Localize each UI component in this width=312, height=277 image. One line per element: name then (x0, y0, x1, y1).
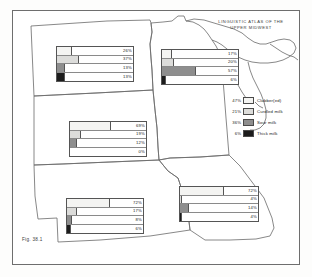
bar-row-thick-milk: 0% (70, 148, 146, 157)
bar-row-thick-milk: 13% (57, 73, 133, 82)
bar-fill (70, 122, 111, 130)
bar-fill (180, 213, 182, 222)
legend-item-sour-milk: 36%Sour milk (228, 117, 298, 128)
bar-fill (67, 208, 77, 216)
legend-item-thick-milk: 6%Thick milk (228, 128, 298, 139)
chart-panel-minnesota: 17%20%57%6% (161, 49, 239, 85)
bar-value-label: 17% (228, 52, 237, 56)
bar-value-label: 4% (250, 197, 256, 201)
bar-row-sour-milk: 13% (57, 64, 133, 73)
bar-row-curdled-milk: 17% (67, 208, 143, 217)
bar-row-clabber-ed: 26% (57, 47, 133, 56)
upper-peninsula-outline (270, 44, 298, 60)
bar-fill (162, 67, 196, 75)
bar-fill (180, 187, 224, 195)
bar-value-label: 20% (228, 60, 237, 64)
legend-label: Clabber(ed) (257, 98, 281, 103)
bar-value-label: 72% (248, 189, 257, 193)
bar-row-curdled-milk: 19% (70, 131, 146, 140)
bar-fill (57, 64, 65, 72)
bar-value-label: 13% (123, 66, 132, 70)
bar-value-label: 72% (133, 201, 142, 205)
bar-row-sour-milk: 57% (162, 67, 238, 76)
bar-value-label: 8% (135, 218, 141, 222)
legend-swatch (243, 130, 254, 137)
bar-value-label: 6% (230, 78, 236, 82)
bar-fill (57, 47, 72, 55)
bar-fill (70, 139, 77, 147)
bar-value-label: 37% (123, 57, 132, 61)
figure-title-line2: UPPER MIDWEST (205, 25, 297, 31)
bar-value-label: 69% (136, 124, 145, 128)
bar-row-curdled-milk: 20% (162, 59, 238, 68)
bar-value-label: 19% (136, 132, 145, 136)
state-outline-minnesota (150, 16, 229, 160)
bar-fill (180, 196, 182, 204)
legend-swatch (243, 119, 254, 126)
legend-percent: 6% (228, 131, 241, 136)
legend-percent: 36% (228, 120, 241, 125)
bar-row-curdled-milk: 4% (180, 196, 258, 205)
bar-row-curdled-milk: 37% (57, 56, 133, 65)
figure-caption: Fig. 38.1 (22, 237, 43, 242)
bar-value-label: 6% (135, 227, 141, 231)
chart-panel-nebraska: 72%17%8%6% (66, 198, 144, 234)
bar-row-clabber-ed: 69% (70, 122, 146, 131)
chart-panel-south-dakota: 69%19%12%0% (69, 121, 147, 157)
bar-fill (67, 216, 72, 224)
legend-item-curdled-milk: 21%Curdled milk (228, 106, 298, 117)
legend-swatch (243, 97, 254, 104)
bar-value-label: 12% (136, 141, 145, 145)
legend-label: Curdled milk (257, 109, 283, 114)
chart-panel-iowa: 72%4%14%4% (179, 186, 259, 222)
legend-item-clabber-ed: 47%Clabber(ed) (228, 95, 298, 106)
bar-fill (162, 76, 166, 85)
legend: 47%Clabber(ed)21%Curdled milk36%Sour mil… (228, 95, 298, 139)
bar-value-label: 57% (228, 69, 237, 73)
bar-fill (57, 56, 79, 64)
bar-row-thick-milk: 6% (162, 76, 238, 85)
bar-fill (180, 204, 189, 212)
legend-percent: 47% (228, 98, 241, 103)
bar-row-sour-milk: 8% (67, 216, 143, 225)
bar-fill (162, 50, 172, 58)
legend-label: Sour milk (257, 120, 276, 125)
bar-row-sour-milk: 12% (70, 139, 146, 148)
bar-value-label: 17% (133, 209, 142, 213)
bar-fill (162, 59, 174, 67)
bar-row-clabber-ed: 17% (162, 50, 238, 59)
figure-title: LINGUISTIC ATLAS OF THE UPPER MIDWEST (205, 19, 297, 31)
bar-value-label: 4% (250, 215, 256, 219)
bar-value-label: 14% (248, 206, 257, 210)
bar-value-label: 26% (123, 49, 132, 53)
bar-row-thick-milk: 4% (180, 213, 258, 222)
bar-fill (67, 225, 71, 234)
bar-row-clabber-ed: 72% (180, 187, 258, 196)
legend-label: Thick milk (257, 131, 278, 136)
bar-value-label: 0% (138, 150, 144, 154)
bar-row-sour-milk: 14% (180, 204, 258, 213)
map-figure-page: LINGUISTIC ATLAS OF THE UPPER MIDWEST 26… (0, 0, 312, 277)
chart-panel-north-dakota: 26%37%13%13% (56, 46, 134, 82)
bar-value-label: 13% (123, 75, 132, 79)
bar-row-clabber-ed: 72% (67, 199, 143, 208)
bar-fill (57, 73, 65, 82)
bar-row-thick-milk: 6% (67, 225, 143, 234)
legend-swatch (243, 108, 254, 115)
bar-fill (67, 199, 110, 207)
bar-fill (70, 131, 81, 139)
legend-percent: 21% (228, 109, 241, 114)
